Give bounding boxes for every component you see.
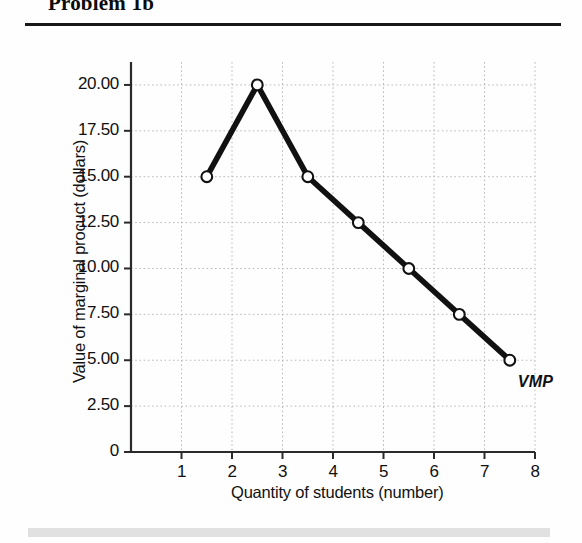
x-tick-label: 2 xyxy=(217,462,247,482)
x-tick-label: 3 xyxy=(268,462,298,482)
y-tick-label: 20.00 xyxy=(35,74,119,94)
gridlines xyxy=(131,62,535,452)
series-annotation-vmp: VMP xyxy=(518,373,554,391)
x-tick-label: 6 xyxy=(419,462,449,482)
axis-lines xyxy=(131,62,535,452)
x-tick-label: 5 xyxy=(369,462,399,482)
x-tick-label: 8 xyxy=(520,462,550,482)
x-tick-label: 1 xyxy=(167,462,197,482)
footer-band xyxy=(28,528,550,537)
chart-page: Problem 1b 02.505.007.5010.0012.5015.001… xyxy=(0,0,582,543)
axis-ticks xyxy=(124,85,535,459)
y-tick-label: 0 xyxy=(35,441,119,461)
x-tick-label: 7 xyxy=(470,462,500,482)
x-tick-label: 4 xyxy=(318,462,348,482)
y-axis-title: Value of marginal procuct (dollars) xyxy=(70,97,89,427)
x-axis-title: Quantity of students (number) xyxy=(231,483,443,502)
